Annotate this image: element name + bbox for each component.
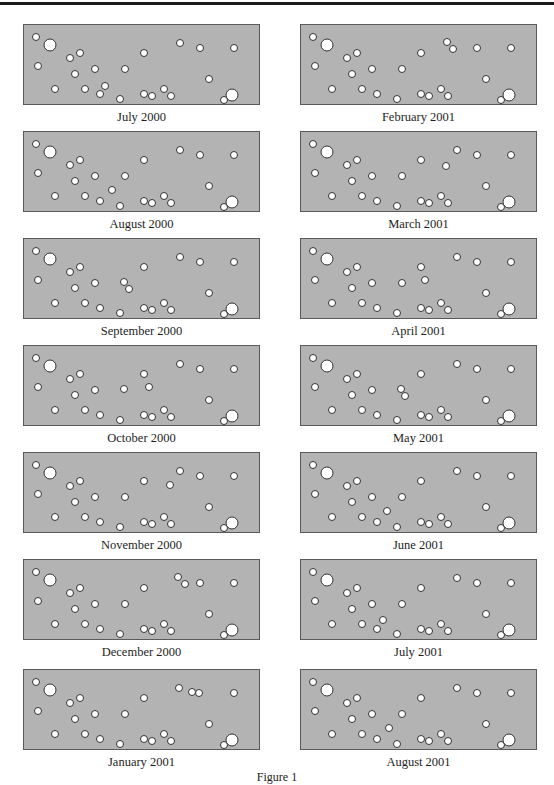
dot-marker [503,410,515,422]
dot-marker [483,504,490,511]
dot-marker [474,152,481,159]
map-panel: February 2001 [300,24,537,105]
dot-field [300,345,537,426]
dot-marker [67,269,74,276]
dot-marker [44,253,56,265]
dot-marker [354,157,361,164]
dot-marker [310,569,317,576]
dot-marker [44,684,56,696]
figure-caption: Figure 1 [0,770,554,785]
dot-field [300,131,537,212]
dot-marker [161,514,168,521]
dot-marker [206,504,213,511]
dot-marker [508,473,515,480]
dot-marker [312,170,319,177]
dot-marker [422,277,429,284]
dot-marker [67,700,74,707]
panel-label: November 2000 [23,538,260,553]
dot-marker [35,598,42,605]
dot-marker [445,200,452,207]
dot-marker [72,71,79,78]
dot-marker [418,157,425,164]
dot-marker [349,716,356,723]
dot-marker [384,508,391,515]
dot-marker [77,695,84,702]
dot-marker [344,376,351,383]
dot-marker [438,514,445,521]
dot-marker [206,721,213,728]
dot-marker [329,731,336,738]
dot-marker [354,585,361,592]
dot-marker [126,286,133,293]
dot-marker [92,387,99,394]
dot-plot [24,132,261,213]
dot-marker [418,478,425,485]
dot-marker [369,711,376,718]
dot-marker [44,39,56,51]
dot-marker [438,86,445,93]
dot-marker [52,86,59,93]
dot-marker [359,193,366,200]
dot-marker [418,305,425,312]
dot-marker [226,734,238,746]
dot-marker [312,491,319,498]
dot-marker [344,700,351,707]
dot-marker [197,259,204,266]
dot-marker [141,91,148,98]
dot-field [300,452,537,533]
dot-marker [312,63,319,70]
dot-marker [146,384,153,391]
dot-marker [394,524,401,531]
dot-marker [168,200,175,207]
dot-marker [67,55,74,62]
dot-marker [418,371,425,378]
dot-marker [445,307,452,314]
dot-plot [301,560,538,641]
dot-marker [454,468,461,475]
dot-marker [349,71,356,78]
panel-label: May 2001 [300,431,537,446]
dot-marker [226,517,238,529]
dot-marker [177,361,184,368]
dot-marker [92,494,99,501]
dot-marker [226,196,238,208]
dot-marker [418,412,425,419]
dot-marker [231,152,238,159]
dot-marker [102,83,109,90]
dot-field [300,24,537,105]
dot-marker [52,514,59,521]
dot-marker [226,89,238,101]
dot-plot [24,25,261,106]
dot-marker [399,601,406,608]
dot-marker [82,514,89,521]
dot-marker [450,46,457,53]
dot-marker [92,601,99,608]
dot-marker [483,397,490,404]
dot-marker [369,280,376,287]
dot-marker [344,55,351,62]
dot-marker [72,178,79,185]
dot-marker [394,631,401,638]
map-panel: June 2001 [300,452,537,533]
dot-marker [508,366,515,373]
dot-marker [369,387,376,394]
dot-marker [77,264,84,271]
dot-marker [359,86,366,93]
dot-marker [141,695,148,702]
dot-marker [438,407,445,414]
dot-marker [167,482,174,489]
dot-marker [161,407,168,414]
dot-marker [197,473,204,480]
dot-marker [321,467,333,479]
panel-label: April 2001 [300,324,537,339]
dot-marker [92,711,99,718]
dot-marker [321,360,333,372]
dot-marker [399,494,406,501]
dot-marker [92,280,99,287]
dot-marker [33,355,40,362]
dot-marker [206,290,213,297]
dot-marker [386,725,393,732]
dot-marker [176,685,183,692]
dot-marker [418,198,425,205]
dot-marker [72,392,79,399]
